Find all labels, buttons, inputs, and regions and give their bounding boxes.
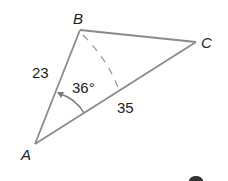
side-label-ab: 23 bbox=[32, 64, 49, 81]
angle-label: 36° bbox=[72, 79, 95, 96]
angle-arc bbox=[60, 94, 84, 113]
corner-dot bbox=[189, 176, 203, 181]
side-label-ac: 35 bbox=[117, 99, 134, 116]
vertex-label-a: A bbox=[20, 146, 31, 163]
edge-bc bbox=[80, 30, 196, 42]
vertex-label-c: C bbox=[201, 34, 212, 51]
triangle-diagram: B C A 23 35 36° bbox=[0, 0, 228, 181]
vertex-label-b: B bbox=[73, 10, 83, 27]
triangle-edges bbox=[35, 30, 196, 144]
